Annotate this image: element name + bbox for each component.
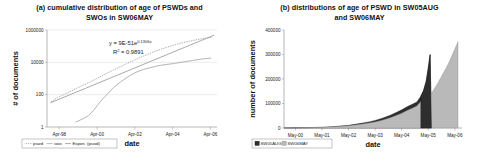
y-tick-label: 100 bbox=[36, 92, 44, 97]
chart-panel-a: (a) cumulative distribution of age of PS… bbox=[0, 0, 239, 161]
x-tick-label: May-01 bbox=[314, 133, 330, 138]
area-series-sw05aug-spike bbox=[421, 55, 432, 129]
chart-a-plot: 1100100001000000Apr-98Apr-00Apr-02Apr-04… bbox=[0, 0, 239, 161]
x-tick-label: Apr-98 bbox=[52, 132, 66, 137]
x-axis-title: date bbox=[124, 139, 139, 148]
x-tick-label: May-02 bbox=[341, 133, 357, 138]
y-tick-label: 300000 bbox=[265, 52, 281, 57]
legend-label-sw05aug: SW05AUG bbox=[261, 141, 283, 146]
r-squared-annotation: R2 = 0.9891 bbox=[113, 48, 144, 55]
legend-label-sw06may: SW06MAY bbox=[288, 141, 309, 146]
chart-b-legend[interactable]: SW05AUGSW06MAY bbox=[252, 139, 332, 148]
y-tick-label: 100000 bbox=[265, 101, 281, 106]
x-tick-label: May-00 bbox=[288, 133, 304, 138]
y-tick-label: 1 bbox=[41, 125, 44, 130]
x-axis-title: date bbox=[365, 140, 380, 149]
x-tick-label: Apr-00 bbox=[90, 132, 104, 137]
legend-label-pswd: pswd bbox=[33, 141, 44, 146]
x-tick-label: Apr-06 bbox=[203, 132, 217, 137]
area-series-sw06may bbox=[284, 42, 458, 128]
x-tick-label: May-06 bbox=[447, 133, 463, 138]
legend-label-exponpswd: Expon. (pswd) bbox=[72, 141, 100, 146]
chart-panel-b: (b) distributions of age of PSWD in SW05… bbox=[240, 0, 479, 161]
y-tick-label: 200000 bbox=[265, 77, 281, 82]
y-tick-label: 1000000 bbox=[26, 28, 44, 33]
x-tick-label: May-05 bbox=[421, 133, 437, 138]
y-axis-title: number of documents bbox=[248, 40, 257, 118]
chart-a-legend[interactable]: pswdswoExpon. (pswd) bbox=[22, 139, 117, 148]
x-tick-label: May-04 bbox=[394, 133, 410, 138]
legend-label-swo: swo bbox=[54, 141, 62, 146]
legend-swatch-sw06may bbox=[282, 141, 286, 145]
figure-container: (a) cumulative distribution of age of PS… bbox=[0, 0, 479, 161]
x-tick-label: Apr-04 bbox=[166, 132, 180, 137]
r-squared-value: = 0.9891 bbox=[119, 49, 143, 55]
y-tick-label: 400000 bbox=[265, 28, 281, 33]
y-tick-label: 10000 bbox=[31, 60, 44, 65]
series-line-swo bbox=[75, 58, 211, 122]
y-tick-label: 0 bbox=[278, 126, 281, 131]
x-tick-label: May-03 bbox=[367, 133, 383, 138]
y-axis-title: # of documents bbox=[11, 51, 20, 106]
legend-swatch-sw05aug bbox=[255, 141, 259, 145]
equation-annotation: y = 9E-51e0.1306x bbox=[109, 39, 151, 46]
chart-b-plot: 0100000200000300000400000May-00May-01May… bbox=[240, 0, 479, 161]
x-tick-label: Apr-02 bbox=[128, 132, 142, 137]
equation-exponent: 0.1306x bbox=[137, 39, 151, 44]
